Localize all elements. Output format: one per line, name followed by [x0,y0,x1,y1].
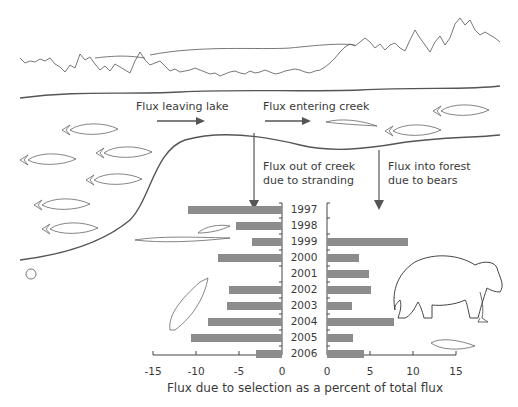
tick-label: 0 [312,365,342,377]
tick-label: 10 [398,365,428,377]
compass-icon [26,269,36,279]
year-label: 1999 [284,235,324,247]
bar-bears [327,334,353,342]
label-bears-1: Flux into forest [388,160,471,173]
bar-bears [327,270,369,278]
bar-bears [327,318,394,326]
bar-stranding [227,302,282,310]
bar-stranding [256,350,282,358]
lake-shore [20,86,500,98]
year-label: 2002 [284,283,324,295]
x-axis-label: Flux due to selection as a percent of to… [0,381,518,395]
year-label: 1997 [284,203,324,215]
bear-icon [394,256,502,318]
year-label: 2004 [284,315,324,327]
label-stranding-1: Flux out of creek [263,160,355,173]
bar-bears [327,350,364,358]
year-label: 2001 [284,267,324,279]
tick-label: 5 [355,365,385,377]
year-label: 2006 [284,347,324,359]
bar-stranding [191,334,282,342]
hills [95,44,355,58]
year-label: 2005 [284,331,324,343]
bar-bears [327,238,408,246]
scene-illustration [0,0,518,407]
year-label: 2000 [284,251,324,263]
label-flux-entering-creek: Flux entering creek [263,100,369,113]
label-flux-leaving-lake: Flux leaving lake [136,100,229,113]
treeline [20,18,500,76]
tick-label: 0 [267,365,297,377]
bear-fish [478,292,488,322]
bar-stranding [229,286,282,294]
bar-stranding [252,238,282,246]
bar-stranding [236,222,282,230]
tick-label: 15 [441,365,471,377]
bar-stranding [188,206,282,214]
label-bears-2: due to bears [388,174,458,187]
tick-label: -15 [138,365,168,377]
tick-label: -10 [181,365,211,377]
bar-stranding [208,318,282,326]
bar-stranding [218,254,282,262]
year-label: 2003 [284,299,324,311]
bar-bears [327,286,371,294]
year-label: 1998 [284,219,324,231]
bar-bears [327,254,359,262]
tick-label: -5 [224,365,254,377]
bar-bears [327,302,352,310]
label-stranding-2: due to stranding [263,174,354,187]
